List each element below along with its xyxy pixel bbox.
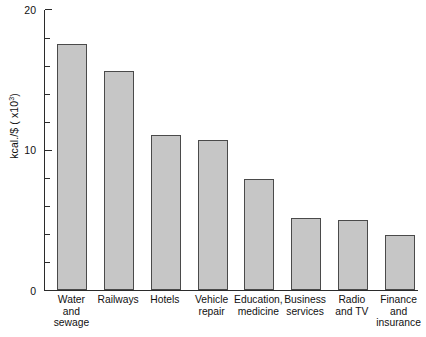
bar: [104, 71, 134, 290]
y-axis-tick-label: 10: [14, 145, 36, 155]
y-axis-minor-tick: [45, 94, 50, 95]
x-axis-category-label: Finance and insurance: [369, 294, 426, 329]
bar: [338, 220, 368, 290]
y-axis-minor-tick: [45, 178, 50, 179]
y-axis-major-tick: [45, 290, 52, 291]
plot-area: [44, 10, 418, 291]
y-axis-tick-label: 20: [14, 5, 36, 15]
y-axis-minor-tick: [45, 66, 50, 67]
y-axis-major-tick: [45, 9, 52, 10]
y-axis-tick-label: 0: [14, 286, 36, 296]
bar: [244, 179, 274, 290]
y-axis-minor-tick: [45, 122, 50, 123]
bar: [57, 44, 87, 290]
y-axis-minor-tick: [45, 262, 50, 263]
bar: [291, 218, 321, 290]
bar: [151, 135, 181, 290]
bar: [385, 235, 415, 290]
y-axis-tick-labels: 01020: [12, 0, 36, 337]
bar: [198, 140, 228, 290]
y-axis-minor-tick: [45, 38, 50, 39]
y-axis-minor-tick: [45, 206, 50, 207]
x-axis-category-labels: Water and sewageRailwaysHotelsVehicle re…: [44, 294, 418, 337]
y-axis-major-tick: [45, 150, 52, 151]
y-axis-minor-tick: [45, 234, 50, 235]
